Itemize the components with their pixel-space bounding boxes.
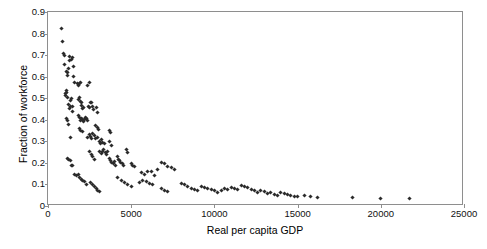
y-tick-label: 0.4 — [32, 115, 45, 125]
y-tick-label: 0.1 — [32, 180, 45, 190]
data-point — [302, 194, 306, 198]
y-tick-mark — [45, 55, 48, 56]
x-tick-label: 20000 — [368, 209, 394, 219]
data-point — [166, 190, 170, 194]
data-point — [109, 143, 113, 147]
data-point — [72, 75, 76, 79]
data-point — [309, 194, 313, 198]
y-tick-label: 0.7 — [32, 50, 45, 60]
x-tick-label: 10000 — [201, 209, 227, 219]
data-point — [152, 174, 156, 178]
data-point — [67, 67, 71, 71]
data-point — [95, 111, 99, 115]
data-point — [60, 27, 64, 31]
data-point — [94, 105, 98, 109]
data-point — [132, 164, 136, 168]
data-point — [65, 90, 69, 94]
y-tick-label: 0.8 — [32, 29, 45, 39]
data-point — [102, 142, 106, 146]
y-tick-mark — [45, 34, 48, 35]
y-tick-label: 0.6 — [32, 72, 45, 82]
data-point — [379, 196, 383, 200]
y-tick-mark — [45, 184, 48, 185]
data-point — [93, 157, 97, 161]
data-point — [156, 168, 160, 172]
data-point — [114, 163, 118, 167]
y-tick-mark — [45, 77, 48, 78]
x-tick-label: 25000 — [451, 209, 477, 219]
data-point — [71, 109, 75, 113]
y-tick-label: 0.3 — [32, 137, 45, 147]
data-point — [61, 40, 65, 44]
y-tick-label: 0.5 — [32, 93, 45, 103]
x-tick-mark — [48, 204, 49, 208]
data-point — [315, 195, 319, 199]
data-point — [71, 65, 75, 69]
data-point — [236, 188, 240, 192]
x-tick-label: 5000 — [121, 209, 142, 219]
data-point — [62, 54, 66, 58]
data-point — [63, 62, 67, 66]
data-point — [350, 196, 354, 200]
x-tick-label: 15000 — [284, 209, 310, 219]
data-point — [69, 135, 73, 139]
x-tick-mark — [464, 204, 465, 208]
data-point — [66, 73, 70, 77]
data-point — [129, 184, 133, 188]
data-point — [126, 150, 130, 154]
x-tick-label: 0 — [45, 209, 50, 219]
data-point — [196, 188, 200, 192]
y-tick-mark — [45, 12, 48, 13]
plot-area: 00.10.20.30.40.50.60.70.80.9 05000100001… — [47, 11, 463, 205]
data-point — [96, 127, 100, 131]
x-tick-mark — [214, 204, 215, 208]
y-tick-mark — [45, 141, 48, 142]
y-tick-mark — [45, 163, 48, 164]
data-point — [68, 158, 72, 162]
data-point — [172, 168, 176, 172]
data-point — [121, 163, 125, 167]
y-axis-label: Fraction of workforce — [17, 39, 29, 189]
data-point — [295, 195, 299, 199]
data-point — [80, 130, 84, 134]
x-axis-label: Real per capita GDP — [47, 224, 463, 236]
y-tick-mark — [45, 120, 48, 121]
y-tick-label: 0.9 — [32, 7, 45, 17]
y-tick-label: 0.2 — [32, 158, 45, 168]
y-tick-mark — [45, 98, 48, 99]
data-point — [151, 182, 155, 186]
data-point — [85, 119, 89, 123]
x-tick-mark — [381, 204, 382, 208]
data-point — [78, 81, 82, 85]
data-point — [109, 131, 113, 135]
data-point — [67, 122, 71, 126]
x-tick-mark — [131, 204, 132, 208]
data-point — [106, 149, 110, 153]
x-tick-mark — [298, 204, 299, 208]
data-point — [407, 197, 411, 201]
data-points-layer — [48, 12, 462, 204]
data-point — [98, 190, 102, 194]
scatter-chart-figure: Fraction of workforce 00.10.20.30.40.50.… — [0, 0, 487, 249]
data-point — [71, 56, 75, 60]
